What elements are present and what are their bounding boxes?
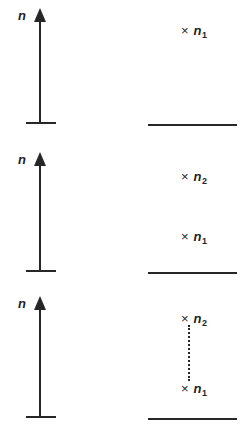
state-label-n2: n2 [194, 312, 207, 325]
state-marker-n2: ×n2 [181, 312, 207, 325]
state-label-n1: n1 [194, 382, 207, 395]
state-marker-n1: ×n1 [181, 382, 207, 395]
cross-icon: × [181, 312, 189, 325]
panel-bottom: n ×n2 ×n1 [0, 0, 250, 439]
state-symbol: n [194, 381, 202, 396]
state-subscript: 1 [202, 388, 207, 398]
level-group-bottom: ×n2 ×n1 [0, 0, 250, 439]
state-symbol: n [194, 311, 202, 326]
cross-icon: × [181, 382, 189, 395]
state-subscript: 2 [202, 318, 207, 328]
energy-level-figure: n ×n1 n ×n2 ×n1 [0, 0, 250, 439]
ground-level-line [148, 418, 237, 420]
transition-dotted-line [188, 325, 190, 381]
